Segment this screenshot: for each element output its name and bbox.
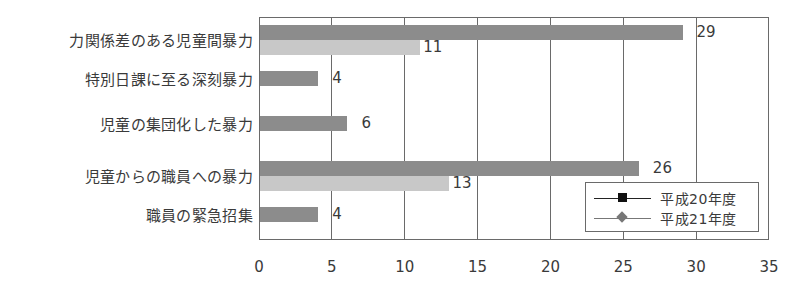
- data-label: 29: [697, 23, 716, 41]
- legend-label: 平成21年度: [660, 208, 737, 228]
- bar-chart: 力関係差のある児童間暴力特別日課に至る深刻暴力児童の集団化した暴力児童からの職員…: [0, 0, 811, 294]
- square-marker-icon: [618, 193, 627, 202]
- data-label: 13: [452, 174, 471, 192]
- legend-entry-h20: 平成20年度: [594, 188, 737, 208]
- gridline: [477, 18, 478, 239]
- category-label: 児童からの職員への暴力: [85, 165, 253, 186]
- category-label: 力関係差のある児童間暴力: [69, 29, 253, 50]
- bar: [260, 40, 420, 55]
- legend-label: 平成20年度: [660, 188, 737, 208]
- data-label: 26: [653, 159, 672, 177]
- bar: [260, 161, 639, 176]
- category-label: 職員の緊急招集: [146, 204, 253, 225]
- legend-line-h21: [594, 218, 651, 219]
- bar: [260, 71, 318, 86]
- x-tick-label: 5: [327, 258, 337, 276]
- legend-entry-h21: 平成21年度: [594, 208, 737, 228]
- category-label: 児童の集団化した暴力: [100, 113, 253, 134]
- diamond-marker-icon: [616, 211, 627, 222]
- bar: [260, 25, 683, 40]
- x-tick-label: 25: [614, 258, 633, 276]
- legend: 平成20年度 平成21年度: [585, 182, 759, 232]
- x-tick-label: 35: [759, 258, 778, 276]
- data-label: 6: [361, 114, 371, 132]
- x-tick-label: 0: [254, 258, 264, 276]
- bar: [260, 116, 347, 131]
- legend-line-h20: [594, 198, 651, 199]
- x-tick-label: 30: [687, 258, 706, 276]
- data-label: 11: [423, 38, 442, 56]
- x-tick-label: 10: [395, 258, 414, 276]
- bar: [260, 207, 318, 222]
- gridline: [550, 18, 551, 239]
- category-label: 特別日課に至る深刻暴力: [85, 68, 253, 89]
- bar: [260, 176, 449, 191]
- data-label: 4: [332, 205, 342, 223]
- x-tick-label: 20: [541, 258, 560, 276]
- data-label: 4: [332, 69, 342, 87]
- x-tick-label: 15: [468, 258, 487, 276]
